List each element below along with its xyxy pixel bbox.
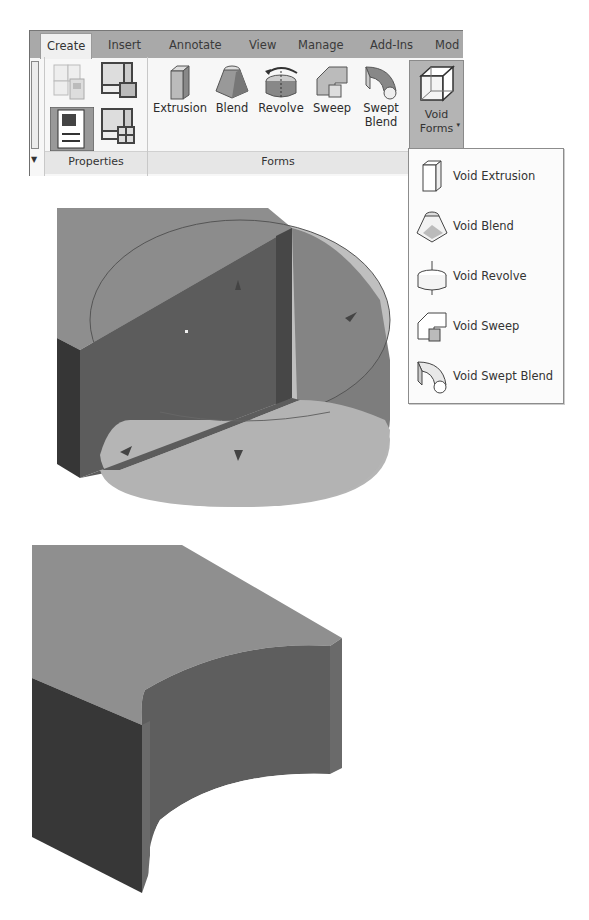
tab-insert[interactable]: Insert [108, 33, 141, 58]
tab-view[interactable]: View [249, 33, 276, 58]
void-revolve-icon [415, 259, 449, 295]
void-forms-menu: Void Extrusion Void Blend Void Revolve V… [408, 148, 564, 404]
menu-item-void-revolve[interactable]: Void Revolve [413, 257, 559, 297]
void-extrusion-icon [415, 159, 449, 195]
menu-item-void-extrusion[interactable]: Void Extrusion [413, 157, 559, 197]
void-blend-icon [415, 209, 449, 245]
properties-button-icon[interactable] [50, 107, 94, 151]
revolve-icon [261, 63, 301, 101]
tab-modify[interactable]: Mod [435, 33, 459, 58]
block-with-void-cylinder [57, 208, 390, 507]
properties-panel-label: Properties [45, 151, 147, 174]
tab-manage[interactable]: Manage [298, 33, 344, 58]
void-forms-button[interactable]: Void Forms ▾ [409, 60, 464, 150]
ribbon-panels: ▼ [30, 57, 463, 176]
ribbon: Create Insert Annotate View Manage Add-I… [29, 30, 463, 176]
block-with-cylindrical-cut [32, 545, 342, 900]
ribbon-tab-bar: Create Insert Annotate View Manage Add-I… [30, 30, 463, 58]
revolve-button[interactable]: Revolve [255, 63, 307, 115]
swept-blend-button[interactable]: Swept Blend [357, 63, 405, 129]
collapsed-panel-stub[interactable] [31, 61, 39, 149]
extrusion-icon [165, 63, 195, 101]
sweep-button[interactable]: Sweep [309, 63, 355, 115]
extrusion-button[interactable]: Extrusion [151, 63, 209, 115]
blend-icon [214, 63, 250, 101]
void-sweep-icon [415, 309, 449, 345]
swept-blend-icon [362, 63, 400, 101]
menu-item-void-blend[interactable]: Void Blend [413, 207, 559, 247]
menu-item-void-swept-blend[interactable]: Void Swept Blend [413, 357, 559, 397]
void-forms-icon [417, 64, 457, 104]
void-swept-blend-icon [415, 359, 449, 395]
tab-create[interactable]: Create [40, 33, 92, 59]
chevron-down-icon[interactable]: ▾ [456, 121, 460, 129]
forms-panel-label: Forms [148, 151, 408, 174]
tab-annotate[interactable]: Annotate [169, 33, 222, 58]
type-properties-icon[interactable] [100, 107, 138, 147]
tab-add-ins[interactable]: Add-Ins [370, 33, 413, 58]
blend-button[interactable]: Blend [211, 63, 253, 115]
family-category-icon[interactable] [100, 61, 138, 99]
panel-expand-arrow-icon[interactable]: ▼ [31, 155, 37, 164]
sweep-icon [313, 63, 351, 101]
menu-item-void-sweep[interactable]: Void Sweep [413, 307, 559, 347]
family-types-icon[interactable] [52, 63, 88, 101]
